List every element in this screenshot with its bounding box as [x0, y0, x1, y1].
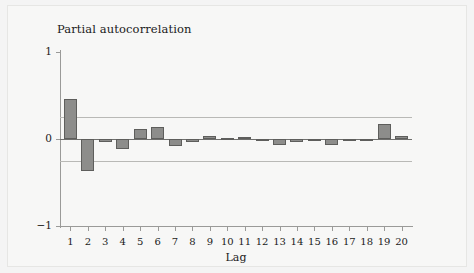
x-tick-label: 19: [378, 236, 391, 247]
x-tick-label: 3: [102, 236, 108, 247]
x-tick-label: 1: [67, 236, 73, 247]
x-tick-mark: [140, 227, 141, 231]
bar-lag-13: [273, 139, 286, 145]
x-tick-label: 7: [172, 236, 178, 247]
x-tick-label: 16: [325, 236, 338, 247]
bar-lag-12: [256, 139, 269, 141]
x-tick-mark: [367, 227, 368, 231]
x-tick-mark: [402, 227, 403, 231]
bar-lag-8: [186, 139, 199, 142]
x-tick-label: 18: [360, 236, 373, 247]
x-tick-label: 15: [308, 236, 321, 247]
x-tick-mark: [88, 227, 89, 231]
x-tick-mark: [105, 227, 106, 231]
x-tick-mark: [192, 227, 193, 231]
lower-confidence-band: [60, 161, 412, 162]
bar-lag-17: [343, 139, 356, 141]
x-tick-mark: [314, 227, 315, 231]
chart-title: Partial autocorrelation: [57, 22, 192, 36]
plot-area: [60, 52, 412, 226]
x-tick-label: 4: [120, 236, 126, 247]
bar-lag-3: [99, 139, 112, 142]
x-tick-label: 13: [273, 236, 286, 247]
x-tick-label: 6: [154, 236, 160, 247]
x-tick-label: 2: [85, 236, 91, 247]
x-tick-mark: [175, 227, 176, 231]
bar-lag-1: [64, 99, 77, 139]
x-tick-label: 8: [189, 236, 195, 247]
x-tick-mark: [297, 227, 298, 231]
bar-lag-20: [395, 136, 408, 139]
x-tick-label: 11: [238, 236, 251, 247]
bar-lag-2: [81, 139, 94, 171]
bar-lag-15: [308, 139, 321, 141]
bar-lag-10: [221, 138, 234, 140]
upper-confidence-band: [60, 117, 412, 118]
x-tick-label: 20: [395, 236, 408, 247]
bar-lag-18: [360, 139, 373, 141]
bar-lag-14: [290, 139, 303, 142]
x-tick-mark: [227, 227, 228, 231]
x-tick-mark: [123, 227, 124, 231]
x-tick-mark: [384, 227, 385, 231]
y-tick-label: 0: [30, 132, 52, 144]
bar-lag-9: [203, 136, 216, 139]
x-tick-label: 17: [343, 236, 356, 247]
x-tick-label: 14: [291, 236, 304, 247]
x-tick-label: 12: [256, 236, 269, 247]
x-tick-mark: [245, 227, 246, 231]
y-tick-mark: [56, 226, 60, 227]
x-tick-mark: [210, 227, 211, 231]
x-tick-label: 10: [221, 236, 234, 247]
bar-lag-11: [238, 137, 251, 139]
x-tick-mark: [70, 227, 71, 231]
figure-container: Partial autocorrelation 10−1 12345678910…: [0, 0, 474, 273]
x-axis-line: [60, 226, 413, 227]
x-tick-label: 5: [137, 236, 143, 247]
bar-lag-6: [151, 127, 164, 139]
x-axis-label: Lag: [226, 251, 247, 264]
y-tick-label: −1: [30, 219, 52, 231]
x-tick-mark: [280, 227, 281, 231]
bar-lag-4: [116, 139, 129, 149]
x-tick-label: 9: [207, 236, 213, 247]
x-tick-mark: [349, 227, 350, 231]
bar-lag-7: [169, 139, 182, 146]
x-tick-mark: [332, 227, 333, 231]
y-tick-label: 1: [30, 45, 52, 57]
x-tick-mark: [262, 227, 263, 231]
bar-lag-5: [134, 129, 147, 139]
zero-reference-line: [60, 139, 412, 140]
bar-lag-16: [325, 139, 338, 145]
x-tick-mark: [158, 227, 159, 231]
bar-lag-19: [378, 124, 391, 139]
